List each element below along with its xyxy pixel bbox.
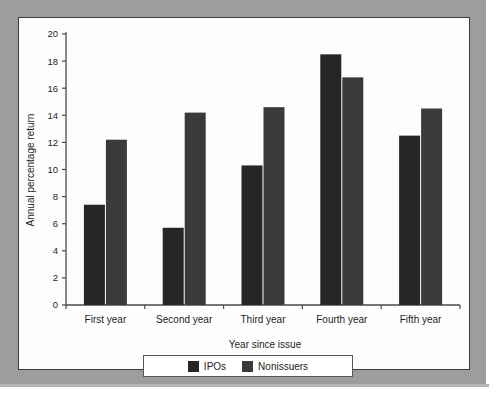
y-tick-label-12: 12: [47, 137, 58, 148]
bar-nonissuers-third-year: [264, 107, 285, 305]
y-tick-label-6: 6: [53, 218, 58, 229]
bar-ipos-second-year: [163, 228, 184, 305]
bar-ipos-third-year: [242, 165, 263, 305]
x-tick-label-third-year: Third year: [240, 314, 286, 325]
legend-swatch-nonissuers-icon: [242, 361, 253, 372]
legend-label-ipos: IPOs: [204, 361, 226, 372]
x-tick-label-fifth-year: Fifth year: [400, 314, 442, 325]
legend-swatch-ipos-icon: [188, 361, 199, 372]
bar-nonissuers-fourth-year: [342, 77, 363, 305]
x-tick-label-first-year: First year: [85, 314, 127, 325]
x-axis-title: Year since issue: [229, 339, 302, 350]
y-tick-label-16: 16: [47, 83, 58, 94]
y-tick-label-10: 10: [47, 164, 58, 175]
y-tick-label-20: 20: [47, 28, 58, 39]
y-tick-label-8: 8: [53, 191, 58, 202]
y-tick-label-14: 14: [47, 110, 58, 121]
bar-chart-svg: 02468101214161820 First yearSecond yearT…: [0, 0, 501, 407]
legend-item-ipos: IPOs: [188, 361, 226, 372]
bar-nonissuers-second-year: [185, 113, 206, 305]
x-axis: [66, 305, 460, 309]
y-tick-label-18: 18: [47, 56, 58, 67]
y-axis-title: Annual percentage return: [25, 114, 36, 227]
x-tick-label-fourth-year: Fourth year: [316, 314, 368, 325]
chart-plot-area: 02468101214161820 First yearSecond yearT…: [0, 0, 501, 407]
bar-ipos-first-year: [84, 205, 105, 305]
y-tick-label-0: 0: [53, 299, 58, 310]
x-tick-labels: First yearSecond yearThird yearFourth ye…: [85, 314, 443, 325]
x-tick-label-second-year: Second year: [156, 314, 213, 325]
bar-nonissuers-fifth-year: [421, 109, 442, 305]
legend-label-nonissuers: Nonissuers: [258, 361, 308, 372]
bars-group: [84, 54, 442, 305]
legend-item-nonissuers: Nonissuers: [242, 361, 308, 372]
bar-ipos-fifth-year: [399, 136, 420, 305]
bar-ipos-fourth-year: [320, 54, 341, 305]
y-tick-label-4: 4: [53, 245, 58, 256]
y-tick-label-2: 2: [53, 272, 58, 283]
chart-legend: IPOs Nonissuers: [143, 355, 353, 377]
bar-nonissuers-first-year: [106, 140, 127, 305]
figure-screenshot: 02468101214161820 First yearSecond yearT…: [0, 0, 501, 407]
y-axis: 02468101214161820: [47, 28, 66, 310]
